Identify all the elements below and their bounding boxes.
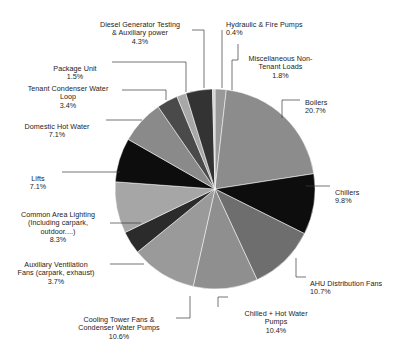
leader-tenant-condenser-water-loop: [122, 90, 166, 100]
label-chillers-pct: 9.8%: [335, 197, 403, 206]
label-misc-non-tenant: Miscellaneous Non- Tenant Loads1.8%: [228, 46, 333, 89]
label-auxiliary-ventilation-fans-pct: 3.7%: [2, 278, 110, 287]
leader-diesel-generator: [192, 30, 204, 88]
label-package-unit: Package Unit1.5%: [40, 56, 110, 90]
label-chilled-hot-water-pumps-name: Chilled + Hot Water Pumps: [244, 309, 307, 327]
leader-boilers: [282, 100, 300, 118]
pie-slice: [215, 90, 314, 189]
label-common-area-lighting-name: Common Area Lighting (Including carpark,…: [21, 210, 95, 236]
label-chillers: Chillers9.8%: [335, 180, 403, 214]
label-boilers-pct: 20.7%: [305, 107, 395, 116]
leader-cooling-tower-fans: [176, 296, 190, 318]
label-boilers: Boilers20.7%: [305, 90, 395, 124]
label-domestic-hot-water: Domestic Hot Water7.1%: [10, 114, 104, 148]
label-auxiliary-ventilation-fans: Auxiliary Ventilation Fans (carpark, exh…: [2, 252, 110, 295]
leader-package-unit: [112, 62, 186, 92]
label-domestic-hot-water-pct: 7.1%: [10, 131, 104, 140]
label-cooling-tower-fans: Cooling Tower Fans & Condenser Water Pum…: [62, 307, 176, 350]
pie-slices-group: [115, 89, 315, 289]
label-misc-non-tenant-name: Miscellaneous Non- Tenant Loads: [248, 54, 312, 72]
label-ahu-distribution-fans-pct: 10.7%: [310, 288, 406, 297]
label-cooling-tower-fans-pct: 10.6%: [62, 333, 176, 342]
pie-chart-figure: Hydraulic & Fire Pumps0.4% Miscellaneous…: [0, 0, 407, 354]
label-auxiliary-ventilation-fans-name: Auxiliary Ventilation Fans (carpark, exh…: [17, 260, 94, 278]
label-misc-non-tenant-pct: 1.8%: [228, 72, 333, 81]
label-tenant-condenser-water-loop-pct: 3.4%: [16, 102, 120, 111]
label-diesel-generator-name: Diesel Generator Testing & Auxiliary pow…: [100, 20, 180, 38]
label-common-area-lighting-pct: 8.3%: [6, 236, 110, 245]
label-common-area-lighting: Common Area Lighting (Including carpark,…: [6, 202, 110, 254]
label-lifts: Lifts7.1%: [16, 166, 60, 200]
label-hydraulic-fire-pumps: Hydraulic & Fire Pumps0.4%: [226, 12, 336, 46]
label-hydraulic-fire-pumps-pct: 0.4%: [226, 29, 336, 38]
label-lifts-pct: 7.1%: [16, 183, 60, 192]
label-diesel-generator-pct: 4.3%: [88, 38, 192, 47]
label-chilled-hot-water-pumps-pct: 10.4%: [222, 327, 330, 336]
label-chilled-hot-water-pumps: Chilled + Hot Water Pumps10.4%: [222, 301, 330, 344]
label-diesel-generator: Diesel Generator Testing & Auxiliary pow…: [88, 12, 192, 55]
label-package-unit-pct: 1.5%: [40, 73, 110, 82]
leader-ahu-fans: [296, 258, 306, 277]
label-cooling-tower-fans-name: Cooling Tower Fans & Condenser Water Pum…: [78, 315, 159, 333]
